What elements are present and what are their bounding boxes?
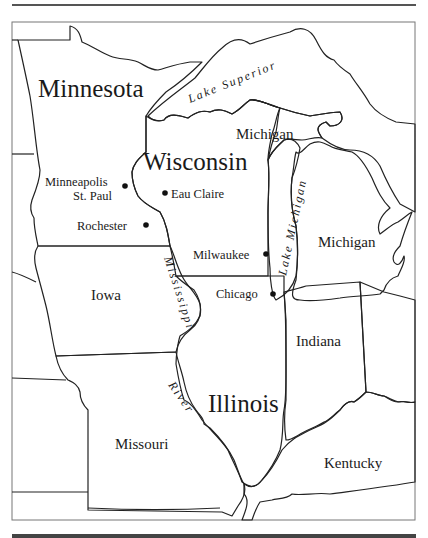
label-michigan-upper: Michigan [236, 126, 294, 142]
label-milwaukee: Milwaukee [193, 248, 250, 262]
label-wisconsin: Wisconsin [143, 148, 248, 175]
city-dot-milwaukee [263, 251, 269, 257]
label-iowa: Iowa [91, 287, 121, 303]
label-kentucky: Kentucky [324, 455, 383, 471]
city-dot-rochester [143, 222, 149, 228]
label-st-paul: St. Paul [73, 189, 112, 203]
city-dot-eau-claire [162, 190, 168, 196]
label-chicago: Chicago [216, 287, 258, 301]
label-missouri: Missouri [115, 436, 168, 452]
label-michigan-lower: Michigan [318, 234, 376, 250]
label-indiana: Indiana [296, 333, 341, 349]
label-minnesota: Minnesota [38, 75, 144, 102]
label-minneapolis: Minneapolis [45, 175, 108, 189]
label-eau-claire: Eau Claire [171, 187, 225, 201]
city-dot-minneapolis [122, 183, 128, 189]
bottom-rule [12, 534, 416, 538]
label-illinois: Illinois [208, 390, 279, 417]
label-rochester: Rochester [77, 219, 128, 233]
city-dot-chicago [270, 291, 276, 297]
midwest-map: Minnesota Wisconsin Illinois Iowa Missou… [0, 0, 428, 538]
